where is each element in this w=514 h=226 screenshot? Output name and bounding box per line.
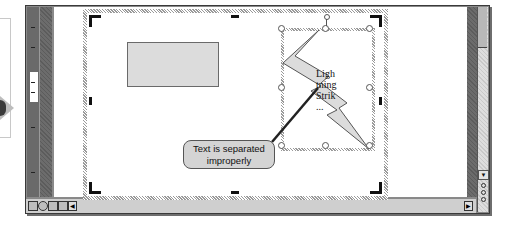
rectangle-shape[interactable]	[127, 42, 219, 87]
resize-handle-right[interactable]	[366, 84, 373, 91]
ruler-tick	[31, 82, 35, 83]
crop-handle-top[interactable]	[231, 15, 239, 18]
canvas-right-margin	[467, 7, 477, 197]
ruler-tick	[31, 27, 35, 28]
resize-handle-top-left[interactable]	[278, 25, 285, 32]
shape-text: Ligh tning Strik ...	[316, 68, 346, 112]
ruler-tick	[31, 47, 35, 48]
ruler-margin-strip	[40, 7, 52, 197]
shape-text-line: Strik	[316, 90, 346, 101]
previous-panel-fragment	[0, 18, 11, 138]
resize-handle-top-right[interactable]	[366, 25, 373, 32]
ruler-tick	[31, 92, 35, 93]
crop-corner-bottom-left[interactable]	[89, 182, 101, 194]
rotate-handle[interactable]	[324, 14, 330, 20]
shape-text-line: Ligh	[316, 68, 346, 79]
previous-slide-icon[interactable]	[481, 183, 486, 188]
slide-sorter-view-icon[interactable]	[58, 201, 68, 211]
shape-text-line: ...	[316, 101, 346, 112]
scroll-right-button[interactable]: ▶	[464, 201, 473, 211]
crop-corner-top-left[interactable]	[89, 15, 101, 27]
scroll-left-button[interactable]: ◀	[68, 201, 77, 211]
next-slide-icon[interactable]	[481, 197, 486, 202]
rotate-handle-stem	[326, 19, 327, 26]
select-browse-object-icon[interactable]	[481, 190, 486, 195]
outline-view-icon[interactable]	[38, 201, 48, 211]
resize-handle-left[interactable]	[278, 84, 285, 91]
slide-view-icon[interactable]	[48, 201, 58, 211]
shape-text-line: tning	[316, 79, 346, 90]
resize-handle-bottom[interactable]	[322, 142, 329, 149]
ruler-tick	[31, 127, 35, 128]
scroll-down-button[interactable]: ▼	[478, 170, 489, 180]
ruler-active-region	[30, 72, 38, 102]
scroll-thumb[interactable]	[478, 7, 487, 48]
crop-handle-right[interactable]	[379, 97, 382, 105]
resize-handle-bottom-right[interactable]	[366, 142, 373, 149]
ruler-tick	[31, 172, 35, 173]
crop-corner-bottom-right[interactable]	[370, 182, 382, 194]
annotation-callout: Text is separated improperly	[183, 140, 275, 169]
normal-view-icon[interactable]	[28, 201, 38, 211]
resize-handle-bottom-left[interactable]	[278, 142, 285, 149]
horizontal-scrollbar[interactable]: ◀ ▶	[26, 198, 476, 213]
vertical-scrollbar[interactable]: ▼	[477, 7, 488, 212]
vertical-ruler	[27, 7, 41, 197]
crop-handle-bottom[interactable]	[231, 191, 239, 194]
resize-handle-top[interactable]	[322, 25, 329, 32]
crop-handle-left[interactable]	[89, 97, 92, 105]
